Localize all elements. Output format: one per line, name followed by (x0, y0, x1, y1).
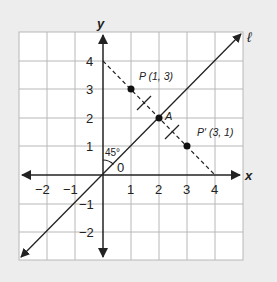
point-a (156, 115, 163, 122)
y-axis-label: y (96, 16, 105, 31)
x-tick-label: 3 (183, 182, 190, 197)
y-tick-label: 3 (86, 82, 93, 97)
y-tick-label: −1 (79, 197, 94, 212)
x-tick-label: 2 (155, 182, 162, 197)
point-a-label: A (164, 110, 172, 122)
angle-label: 45° (105, 147, 120, 158)
point-p (128, 86, 135, 93)
y-tick-label: 1 (86, 139, 93, 154)
point-p-label: P (1, 3) (139, 70, 173, 82)
point-p-prime (184, 143, 191, 150)
point-p-prime-label: P′ (3, 1) (197, 126, 233, 138)
x-tick-label: 4 (211, 182, 218, 197)
x-tick-label: −2 (35, 182, 50, 197)
y-tick-label: 2 (86, 111, 93, 126)
x-axis-label: x (244, 168, 253, 183)
line-l-label: ℓ (246, 29, 252, 45)
x-tick-label: −1 (63, 182, 78, 197)
origin-label: 0 (117, 160, 124, 175)
y-tick-label: 4 (86, 54, 93, 69)
x-tick-label: 1 (127, 182, 134, 197)
reflection-diagram: y x ℓ −2 −1 1 2 3 4 4 3 2 1 −1 −2 0 45° … (0, 0, 277, 282)
y-tick-label: −2 (79, 225, 94, 240)
